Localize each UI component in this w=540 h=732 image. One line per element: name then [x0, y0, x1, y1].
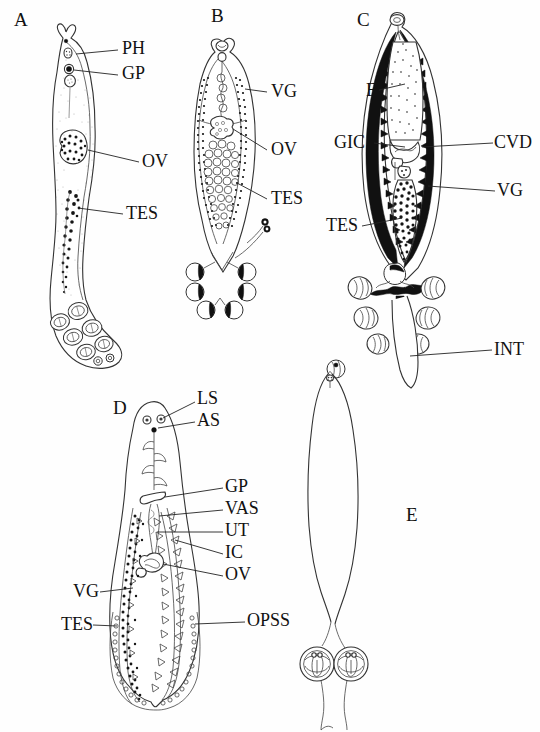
filament-left-e [321, 680, 324, 730]
label-ov-a: OV [142, 152, 168, 170]
terminal-hook [106, 354, 114, 362]
label-ov-b: OV [271, 140, 297, 158]
clamp [352, 304, 381, 331]
label-tes-d: TES [61, 615, 93, 633]
haptor-b [186, 262, 256, 319]
figure-plate: A PH GP OV TES [0, 0, 540, 732]
label-gp-d: GP [225, 477, 248, 495]
leader-ov-a [88, 150, 139, 162]
label-int-c: INT [494, 340, 524, 358]
label-opss-d: OPSS [247, 611, 290, 629]
terminal-hook [94, 357, 102, 365]
panel-b: B VG OV TES [175, 0, 310, 340]
ovary-b [210, 116, 233, 139]
label-as-d: AS [197, 411, 220, 429]
clamp [197, 301, 215, 319]
label-gic-c: GIC [334, 133, 365, 151]
genital-atrium-a [66, 66, 71, 71]
label-ls-d: LS [197, 389, 218, 407]
peduncle-left-e [322, 622, 331, 646]
leader-opss-d [195, 622, 245, 624]
body-apex-e [328, 372, 332, 374]
label-tes-a: TES [126, 204, 158, 222]
clamp [238, 283, 256, 301]
panel-c: C E GIC CVD VG TES INT [310, 0, 540, 390]
appendix-hooklets-b [262, 219, 271, 233]
label-tes-b: TES [271, 189, 303, 207]
label-ut-d: UT [225, 521, 249, 539]
body-edge-left-e [308, 374, 331, 622]
oral-sucker-a [64, 39, 68, 43]
filament-right-e [344, 680, 347, 730]
label-vg-c: VG [497, 181, 523, 199]
oral-sucker-c [390, 15, 404, 26]
clamp [186, 263, 204, 281]
uterus-egg-region-c [387, 42, 423, 140]
clamp [414, 304, 443, 331]
panel-b-drawing [175, 0, 310, 340]
peduncle-right-e [335, 624, 345, 648]
label-cvd-c: CVD [494, 133, 532, 151]
panel-a-drawing [0, 0, 175, 380]
genital-bulb-a [65, 75, 76, 87]
oral-sucker-b [216, 41, 228, 51]
label-ov-d: OV [225, 565, 251, 583]
panel-letter-b: B [211, 6, 224, 25]
panel-d: D LS AS GP VAS UT IC OV VG TES OPSS [55, 380, 310, 732]
anterior-sucker-d [152, 428, 157, 433]
label-vas-d: VAS [225, 499, 259, 517]
panel-a: A PH GP OV TES [0, 0, 175, 380]
label-ic-d: IC [225, 543, 243, 561]
pharynx-a [64, 48, 72, 58]
body-edge-right-e [332, 374, 358, 624]
panel-e-drawing [295, 360, 475, 732]
clamp [238, 263, 256, 281]
panel-letter-a: A [14, 10, 28, 29]
leader-ls-d [163, 402, 195, 418]
clamp [418, 274, 448, 303]
filament-junction-e [321, 726, 333, 730]
clamp [225, 301, 243, 319]
label-vg-d: VG [73, 582, 99, 600]
label-ph-a: PH [122, 39, 145, 57]
apical-sucker-e [327, 375, 334, 381]
panel-letter-d: D [113, 398, 127, 417]
clamp [186, 283, 204, 301]
panel-letter-e: E [406, 505, 418, 524]
label-vg-b: VG [271, 82, 297, 100]
label-e-c: E [366, 81, 377, 99]
pharynx-b [218, 53, 226, 62]
clamp [366, 333, 391, 356]
clamp [345, 274, 375, 303]
label-tes-c: TES [326, 216, 358, 234]
ootype-c [398, 166, 410, 178]
label-gp-a: GP [122, 64, 145, 82]
panel-letter-c: C [357, 10, 370, 29]
panel-e: E [295, 360, 475, 732]
panel-d-drawing [55, 380, 310, 732]
clamp-left-e [300, 647, 334, 681]
clamp-right-e [334, 647, 368, 681]
